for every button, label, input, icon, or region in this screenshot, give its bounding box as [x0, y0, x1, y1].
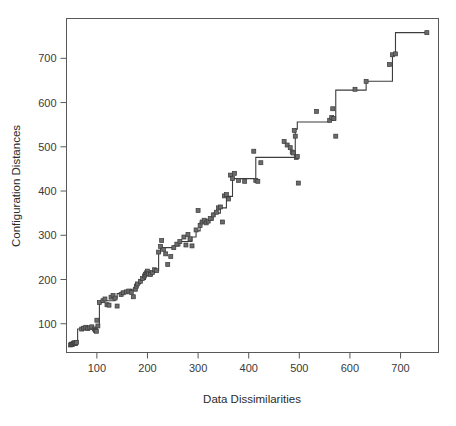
data-point — [157, 250, 161, 254]
data-point — [237, 178, 241, 182]
data-point — [178, 239, 182, 243]
data-point — [393, 52, 397, 56]
y-axis-title: Configuration Distances — [10, 125, 22, 247]
data-point — [190, 244, 194, 248]
y-tick-label: 400 — [38, 185, 56, 197]
data-point — [224, 193, 228, 197]
data-point — [353, 87, 357, 91]
data-point — [315, 109, 319, 113]
data-point — [107, 303, 111, 307]
data-point — [231, 177, 235, 181]
data-point — [160, 239, 164, 243]
data-point — [291, 151, 295, 155]
y-tick-label: 500 — [38, 141, 56, 153]
data-point — [129, 290, 133, 294]
data-point — [162, 247, 166, 251]
y-tick-label: 200 — [38, 274, 56, 286]
data-point — [182, 235, 186, 239]
data-point — [164, 252, 168, 256]
x-tick-label: 500 — [290, 362, 308, 374]
chart-canvas: 100200300400500600700 100200300400500600… — [0, 0, 456, 426]
data-point — [155, 269, 159, 273]
data-point — [214, 210, 218, 214]
x-tick-label: 300 — [189, 362, 207, 374]
data-point — [295, 155, 299, 159]
y-tick-label: 100 — [38, 318, 56, 330]
x-tick-label: 200 — [138, 362, 156, 374]
data-point — [113, 296, 117, 300]
data-point — [196, 208, 200, 212]
data-point — [293, 134, 297, 138]
shepard-diagram-plot: 100200300400500600700 100200300400500600… — [0, 0, 456, 426]
data-point — [256, 179, 260, 183]
data-point — [131, 295, 135, 299]
data-point — [166, 262, 170, 266]
data-point — [364, 79, 368, 83]
data-point — [233, 171, 237, 175]
data-point — [292, 128, 296, 132]
data-point — [115, 304, 119, 308]
data-point — [226, 197, 230, 201]
data-point — [218, 205, 222, 209]
y-tick-label: 600 — [38, 97, 56, 109]
x-tick-label: 700 — [391, 362, 409, 374]
data-point — [169, 255, 173, 259]
data-point — [194, 228, 198, 232]
data-point — [96, 324, 100, 328]
data-point — [259, 161, 263, 165]
data-point — [75, 340, 79, 344]
data-point — [334, 134, 338, 138]
data-point — [103, 297, 107, 301]
data-point — [332, 116, 336, 120]
data-point — [188, 237, 192, 241]
data-point — [184, 243, 188, 247]
data-point — [288, 146, 292, 150]
y-tick-label: 700 — [38, 52, 56, 64]
data-point — [387, 63, 391, 67]
data-point — [425, 31, 429, 35]
data-point — [243, 179, 247, 183]
data-point — [252, 149, 256, 153]
y-tick-label: 300 — [38, 229, 56, 241]
data-point — [331, 107, 335, 111]
x-tick-label: 400 — [240, 362, 258, 374]
x-axis-title: Data Dissimilarities — [203, 393, 301, 405]
data-point — [95, 318, 99, 322]
data-point — [94, 329, 98, 333]
data-point — [186, 232, 190, 236]
data-point — [296, 181, 300, 185]
x-tick-label: 600 — [341, 362, 359, 374]
data-point — [220, 220, 224, 224]
x-tick-label: 100 — [88, 362, 106, 374]
